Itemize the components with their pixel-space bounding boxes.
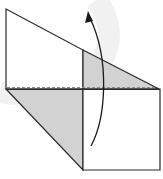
origami-diagram: [0, 0, 163, 179]
lower-left-shaded-flap: [6, 89, 83, 170]
upper-panel: [6, 9, 83, 89]
lower-right-square: [83, 89, 160, 170]
upper-right-shaded-triangle: [83, 50, 159, 89]
